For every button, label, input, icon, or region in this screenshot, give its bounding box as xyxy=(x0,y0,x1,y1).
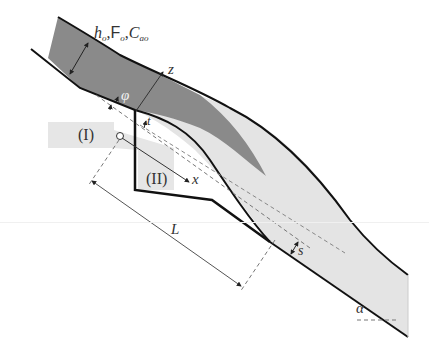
inflow-parameters-label: ho,Fo,Cao xyxy=(94,25,148,43)
aerator-diagram: ho,Fo,Cao z φ t (I) (II) x L s α xyxy=(0,0,429,360)
step-s-label: s xyxy=(298,244,303,258)
length-L-label: L xyxy=(171,222,179,237)
region-1-label: (I) xyxy=(78,127,94,143)
t-arrow-right xyxy=(144,121,146,128)
z-axis-label: z xyxy=(168,62,174,77)
inflow-C-sub: ao xyxy=(139,33,148,43)
phi-label: φ xyxy=(121,88,129,103)
t-arrow-top xyxy=(110,105,111,110)
inflow-C: C xyxy=(129,24,140,41)
L-extension-right xyxy=(240,240,275,292)
x-axis-label: x xyxy=(192,172,199,187)
L-dimension-line xyxy=(92,181,241,286)
diagram-canvas xyxy=(0,0,429,360)
region-2-label: (II) xyxy=(146,171,167,187)
scan-artifact-line xyxy=(0,222,429,223)
t-label: t xyxy=(147,114,151,127)
inflow-h: h xyxy=(94,24,102,41)
angle-alpha-label: α xyxy=(356,301,364,316)
inflow-F: F xyxy=(111,24,121,41)
